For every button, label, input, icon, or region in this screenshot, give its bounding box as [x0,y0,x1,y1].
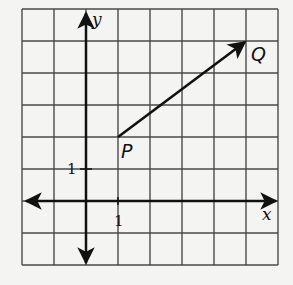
coordinate-plane-figure: x y 1 1 P Q [0,0,293,285]
x-tick-label: 1 [114,212,124,230]
x-axis-label: x [262,204,272,224]
y-axis-label: y [91,9,102,29]
vector-pq: P Q [118,42,266,162]
point-p-label: P [121,140,133,162]
y-tick-label: 1 [67,160,77,178]
coordinate-plane: x y 1 1 P Q [0,0,293,285]
point-q-label: Q [251,43,266,65]
